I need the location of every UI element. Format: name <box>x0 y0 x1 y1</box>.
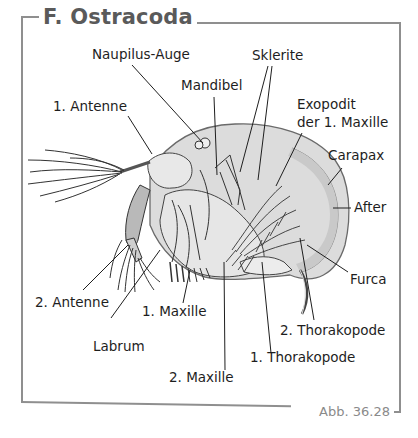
first-antenna <box>28 150 150 202</box>
label-exopodit-line1: Exopodit <box>297 96 356 113</box>
label-thorakopode-1: 1. Thorakopode <box>250 349 355 366</box>
leader-antenne-1 <box>128 116 152 154</box>
label-sklerite: Sklerite <box>252 47 303 64</box>
label-after: After <box>354 199 386 216</box>
label-furca: Furca <box>350 271 387 288</box>
label-antenne-1: 1. Antenne <box>53 98 127 115</box>
ostracoda-figure: F. Ostracoda Abb. 36.28 <box>0 0 418 438</box>
leader-maxille-1 <box>183 270 190 303</box>
label-naupilus-auge: Naupilus-Auge <box>92 46 190 63</box>
label-mandibel: Mandibel <box>181 77 242 94</box>
label-thorakopode-2: 2. Thorakopode <box>280 322 385 339</box>
leader-antenne-2 <box>83 245 128 290</box>
label-labrum: Labrum <box>93 338 145 355</box>
label-antenne-2: 2. Antenne <box>35 294 109 311</box>
label-maxille-1: 1. Maxille <box>142 303 207 320</box>
label-exopodit-line2: der 1. Maxille <box>297 114 388 131</box>
label-carapax: Carapax <box>328 147 384 164</box>
label-maxille-2: 2. Maxille <box>169 369 234 386</box>
